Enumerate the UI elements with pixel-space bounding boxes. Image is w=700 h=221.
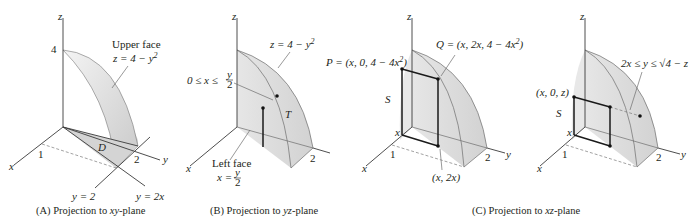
- y-axis-label: y: [680, 148, 686, 160]
- svg-text:2: 2: [235, 176, 241, 188]
- panel-c-right: z x 1 x 2 y S (x, 0, z) 2x ≤ y ≤ √4 − z: [536, 10, 689, 174]
- x-small-label: x: [394, 126, 400, 138]
- x-small-label: x: [566, 126, 572, 138]
- region-t-label: T: [285, 108, 292, 120]
- x-tick-1: 1: [38, 148, 44, 160]
- z-axis-label: z: [406, 10, 412, 22]
- upper-face-eq: z = 4 − y2: [112, 51, 158, 64]
- region-d-label: D: [97, 141, 106, 153]
- z-axis-label: z: [231, 10, 237, 22]
- upper-face-title: Upper face: [112, 38, 161, 50]
- y-axis-label: y: [162, 153, 168, 165]
- base-point-label: (x, 2x): [432, 171, 460, 184]
- panel-a: z 4 x 1 y 2 D Upper face z = 4 − y2 y = …: [8, 10, 168, 202]
- y-tick-2: 2: [310, 152, 316, 164]
- surface-eq: z = 4 − y2: [269, 37, 315, 50]
- x-tick-1: 1: [562, 148, 568, 160]
- z-axis-label: z: [57, 10, 63, 22]
- x-axis-label: x: [361, 162, 367, 174]
- left-face-eq: x =: [216, 171, 232, 183]
- point-p-label: P = (x, 0, 4 − 4x2): [325, 55, 407, 69]
- caption-a: (A) Projection to xy-plane: [36, 205, 146, 217]
- panel-c-left: z x 1 x 2 y S P = (x, 0, 4 − 4x2) Q = (x…: [325, 10, 524, 184]
- x-axis-label: x: [185, 162, 191, 174]
- range-y-label: 2x ≤ y ≤ √4 − z: [621, 57, 689, 69]
- y-tick-2: 2: [485, 151, 491, 163]
- caption-b: (B) Projection to yz-plane: [210, 205, 319, 217]
- region-s-label: S: [385, 93, 391, 105]
- line-y-2x-label: y = 2x: [135, 190, 164, 202]
- point-x0z-label: (x, 0, z): [536, 86, 569, 99]
- region-s-label: S: [556, 107, 562, 119]
- caption-c: (C) Projection to xz-plane: [472, 205, 581, 217]
- y-tick-2: 2: [134, 153, 140, 165]
- x-tick-1: 1: [390, 148, 396, 160]
- range-x-label: 0 ≤ x ≤: [187, 74, 218, 86]
- y-axis-label: y: [505, 148, 511, 160]
- point-q-label: Q = (x, 2x, 4 − 4x2): [436, 37, 524, 51]
- x-axis-label: x: [8, 160, 14, 172]
- svg-text:2: 2: [227, 78, 233, 90]
- left-face-title: Left face: [212, 157, 251, 169]
- panel-b: z x 2 T z = 4 − y2 0 ≤ x ≤ y 2 Left face…: [185, 10, 330, 188]
- x-axis-label: x: [536, 162, 542, 174]
- y-tick-2: 2: [656, 151, 662, 163]
- projection-figure: z 4 x 1 y 2 D Upper face z = 4 − y2 y = …: [0, 0, 700, 221]
- z-tick-4: 4: [51, 43, 57, 55]
- line-y-2-label: y = 2: [71, 190, 96, 202]
- z-axis-label: z: [579, 10, 585, 22]
